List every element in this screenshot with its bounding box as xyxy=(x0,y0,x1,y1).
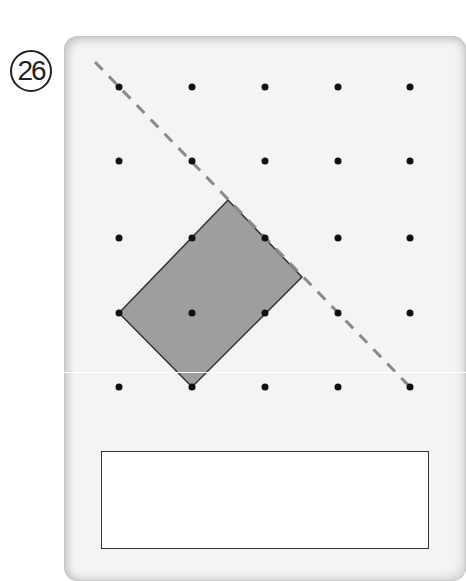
grid-dot xyxy=(335,84,342,91)
grid-dot xyxy=(335,384,342,391)
grid-dot xyxy=(116,235,123,242)
scan-artifact-line xyxy=(0,372,466,373)
grid-dot xyxy=(407,235,414,242)
grid-dot xyxy=(407,84,414,91)
shaded-rectangle xyxy=(119,200,302,387)
grid-dot xyxy=(116,84,123,91)
answer-box[interactable] xyxy=(101,451,429,549)
grid-dot xyxy=(189,235,196,242)
grid-dot xyxy=(262,310,269,317)
grid-dot xyxy=(262,235,269,242)
grid-dot xyxy=(189,158,196,165)
symmetry-line-dashed xyxy=(95,62,410,387)
grid-dot xyxy=(189,310,196,317)
grid-dot xyxy=(189,84,196,91)
grid-dot xyxy=(262,384,269,391)
grid-dot xyxy=(335,235,342,242)
grid-dot xyxy=(262,158,269,165)
grid-dot xyxy=(407,310,414,317)
grid-dot xyxy=(407,158,414,165)
grid-dot xyxy=(189,384,196,391)
grid-dot xyxy=(116,158,123,165)
grid-dot xyxy=(407,384,414,391)
grid-dot xyxy=(116,384,123,391)
grid-dot xyxy=(335,158,342,165)
grid-dot xyxy=(335,310,342,317)
grid-dot xyxy=(116,310,123,317)
grid-dot xyxy=(262,84,269,91)
